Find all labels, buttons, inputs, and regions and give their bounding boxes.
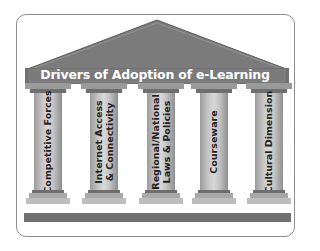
pillar-courseware: Courseware — [191, 83, 237, 214]
pillar-base-step — [247, 198, 291, 204]
pillar-regional-laws: Regional/National Laws & Policies — [138, 83, 184, 214]
temple-base — [24, 213, 291, 222]
pillar-base-step — [82, 198, 126, 204]
pillar-label: Internet Access & Connectivity — [94, 100, 115, 183]
pillar-shaft: Internet Access & Connectivity — [90, 93, 118, 190]
pillar-shaft: Competitive Forces — [34, 93, 62, 190]
pillar-label: Competitive Forces — [43, 90, 54, 193]
pillar-label: Courseware — [209, 110, 220, 173]
pillar-shaft: Regional/National Laws & Policies — [147, 93, 175, 190]
pillar-competitive-forces: Competitive Forces — [25, 83, 71, 214]
pillar-internet-access: Internet Access & Connectivity — [81, 83, 127, 214]
pillar-label: Cultural Dimension — [264, 90, 275, 192]
pillar-base-step — [26, 198, 70, 204]
pillar-base-step — [192, 198, 236, 204]
pillar-base-step — [139, 198, 183, 204]
pillar-label: Regional/National Laws & Policies — [151, 94, 172, 189]
pillar-cultural-dimension: Cultural Dimension — [246, 83, 292, 214]
pillar-shaft: Courseware — [200, 93, 228, 190]
diagram-title: Drivers of Adoption of e-Learning — [26, 66, 284, 84]
pillar-shaft: Cultural Dimension — [255, 93, 283, 190]
